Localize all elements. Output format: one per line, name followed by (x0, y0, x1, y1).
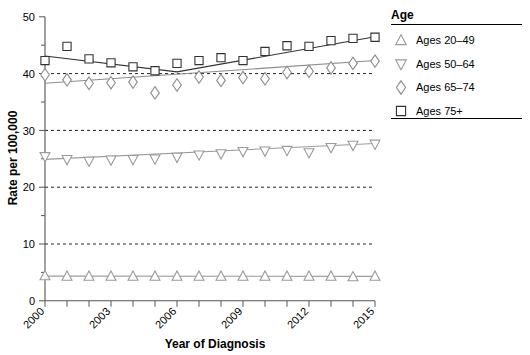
data-point (239, 56, 247, 64)
y-tick-label-20: 20 (23, 181, 35, 193)
data-point (348, 141, 358, 150)
data-point (326, 271, 336, 280)
data-point (371, 55, 380, 67)
data-point (327, 37, 335, 45)
data-point (40, 270, 50, 279)
data-point (305, 65, 314, 77)
data-point (194, 151, 204, 160)
data-point (107, 59, 115, 67)
x-tick-label-2015: 2015 (351, 305, 377, 331)
data-point (304, 149, 314, 158)
x-tick-label-2006: 2006 (153, 305, 179, 331)
data-point (217, 74, 226, 86)
data-point (63, 74, 72, 86)
legend-item-label: Ages 20–49 (416, 34, 475, 46)
data-point (216, 271, 226, 280)
legend-title: Age (391, 8, 414, 22)
data-point (283, 42, 291, 50)
triangle-down-icon (396, 60, 407, 70)
data-point (172, 271, 182, 280)
legend-item-label: Ages 65–74 (416, 81, 475, 93)
x-tick-label-2003: 2003 (87, 305, 113, 331)
data-point (260, 147, 270, 156)
data-point (150, 155, 160, 164)
data-point (217, 54, 225, 62)
x-tick-label-2012: 2012 (285, 305, 311, 331)
data-point (151, 87, 160, 99)
square-icon (396, 106, 405, 115)
data-point (40, 153, 50, 162)
data-point (282, 271, 292, 280)
y-tick-label-10: 10 (23, 238, 35, 250)
data-point (62, 155, 72, 164)
data-point (371, 33, 379, 41)
data-point (129, 63, 137, 71)
y-tick-label-40: 40 (23, 68, 35, 80)
data-point (370, 271, 380, 280)
data-point (349, 34, 357, 42)
data-point (173, 59, 181, 67)
gridlines (45, 74, 375, 244)
data-point (238, 148, 248, 157)
data-point (85, 77, 94, 89)
x-axis-title: Year of Diagnosis (165, 337, 266, 351)
y-axis-title: Rate per 100,000 (6, 110, 20, 205)
y-tick-label-30: 30 (23, 125, 35, 137)
data-point (195, 56, 203, 64)
data-point (304, 271, 314, 280)
series-ages-50-64 (40, 140, 380, 166)
legend-item-label: Ages 50–64 (416, 58, 475, 70)
data-point (260, 271, 270, 280)
x-tick-label-2009: 2009 (219, 305, 245, 331)
legend-items: Ages 20–49Ages 50–64Ages 65–74Ages 75+ (396, 34, 475, 117)
data-point (261, 47, 269, 55)
data-point (282, 146, 292, 155)
trend-line-segment-1 (177, 37, 375, 72)
legend: Age Ages 20–49Ages 50–64Ages 65–74Ages 7… (391, 8, 522, 119)
trend-line (45, 61, 375, 84)
data-point (261, 72, 270, 84)
x-axis: 2000 2003 2006 2009 2012 2015 Year of Di… (21, 301, 377, 351)
x-tick-label-2000: 2000 (21, 305, 47, 331)
data-point (41, 69, 50, 81)
data-point (41, 56, 49, 64)
data-point (370, 140, 380, 149)
data-point (216, 150, 226, 159)
data-point (172, 153, 182, 162)
data-point (106, 156, 116, 165)
data-point (63, 42, 71, 50)
data-point (194, 271, 204, 280)
data-point (151, 67, 159, 75)
y-axis: 50 40 30 20 10 0 Rate per 100,000 (6, 11, 45, 307)
data-point (305, 42, 313, 50)
data-point (84, 157, 94, 166)
data-point (326, 144, 336, 153)
diamond-icon (396, 81, 405, 94)
y-tick-label-50: 50 (23, 11, 35, 23)
data-point (128, 155, 138, 164)
data-point (173, 79, 182, 91)
chart-svg: 50 40 30 20 10 0 Rate per 100,000 (0, 0, 530, 355)
data-point (349, 57, 358, 69)
data-point (238, 271, 248, 280)
data-point (85, 55, 93, 63)
data-point (283, 66, 292, 78)
x-ticks (45, 301, 375, 307)
series-ages-20-49 (40, 270, 380, 280)
legend-item-label: Ages 75+ (416, 105, 463, 117)
chart-figure: 50 40 30 20 10 0 Rate per 100,000 (0, 0, 530, 355)
data-point (150, 271, 160, 280)
y-tick-label-0: 0 (29, 295, 35, 307)
triangle-up-icon (396, 35, 407, 45)
